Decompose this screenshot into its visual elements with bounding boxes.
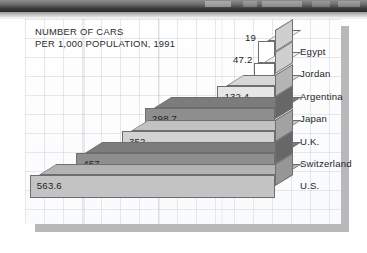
category-label-japan: Japan bbox=[300, 113, 327, 124]
category-label-argentina: Argentina bbox=[300, 91, 343, 102]
category-label-u-s-: U.S. bbox=[300, 180, 319, 191]
bar-top-face bbox=[85, 142, 301, 153]
bar-u-s- bbox=[30, 175, 275, 197]
category-label-jordan: Jordan bbox=[300, 68, 331, 79]
category-label-u-k-: U.K. bbox=[300, 136, 319, 147]
chart-figure: NUMBER OF CARSPER 1,000 POPULATION, 1991… bbox=[0, 0, 367, 253]
category-label-egypt: Egypt bbox=[300, 46, 326, 57]
category-label-switzerland: Switzerland bbox=[300, 158, 352, 169]
bar-top-face bbox=[39, 164, 302, 175]
bars-layer: 19Egypt47.2Jordan132.4Argentina298.7Japa… bbox=[0, 0, 367, 253]
bar-value-label: 563.6 bbox=[37, 180, 62, 191]
bar-front-face bbox=[30, 175, 275, 197]
bar-value-label: 47.2 bbox=[224, 54, 252, 65]
bar-value-label: 19 bbox=[228, 32, 256, 43]
